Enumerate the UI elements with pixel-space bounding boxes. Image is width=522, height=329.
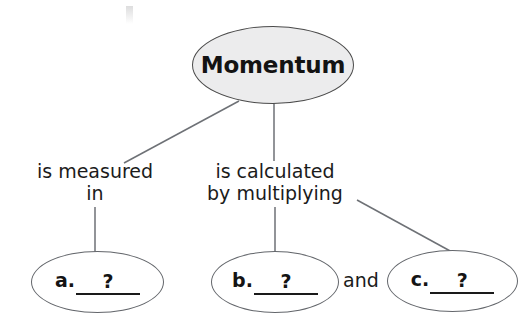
node-answer-b[interactable]: b. ? — [211, 251, 339, 313]
node-momentum: Momentum — [192, 26, 354, 104]
node-answer-c-content: c. ? — [411, 268, 494, 293]
connector-root-to-measured — [124, 101, 239, 163]
node-answer-a-blank[interactable]: ? — [76, 270, 140, 295]
edge-label-is-measured-in: is measured in — [24, 161, 166, 204]
node-answer-c[interactable]: c. ? — [387, 250, 518, 312]
node-answer-a-content: a. ? — [55, 269, 140, 294]
conjunction-label: and — [343, 269, 379, 291]
node-answer-b-content: b. ? — [232, 269, 318, 294]
node-answer-c-blank[interactable]: ? — [430, 269, 494, 294]
connector-calculated-to-node-c — [357, 200, 452, 252]
node-answer-b-letter: b. — [232, 269, 253, 291]
node-answer-a-letter: a. — [55, 269, 75, 291]
node-answer-b-blank[interactable]: ? — [254, 270, 318, 295]
node-answer-a[interactable]: a. ? — [31, 251, 164, 313]
edge-label-is-calculated-by-multiplying: is calculated by multiplying — [186, 161, 364, 204]
node-momentum-label: Momentum — [201, 52, 345, 78]
node-answer-c-letter: c. — [411, 268, 429, 290]
concept-map-diagram: Momentum is measured in is calculated by… — [0, 0, 522, 329]
